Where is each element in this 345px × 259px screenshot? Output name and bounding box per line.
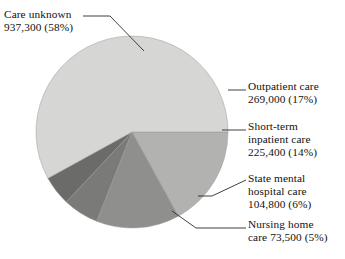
pie-slice-group <box>36 36 228 228</box>
pie-chart-figure: Care unknown 937,300 (58%) Outpatient ca… <box>0 0 345 259</box>
leader-line-nursing-home-diagonal <box>172 211 196 228</box>
slice-label-state-mental-hospital-care: State mental hospital care 104,800 (6%) <box>248 172 311 212</box>
slice-label-outpatient-care: Outpatient care 269,000 (17%) <box>248 80 319 106</box>
slice-label-care-unknown: Care unknown 937,300 (58%) <box>4 8 73 34</box>
leader-line-state-mental-diagonal <box>212 180 246 196</box>
slice-label-short-term-inpatient-care: Short-term inpatient care 225,400 (14%) <box>248 120 317 160</box>
slice-label-nursing-home-care: Nursing home care 73,500 (5%) <box>248 218 328 244</box>
